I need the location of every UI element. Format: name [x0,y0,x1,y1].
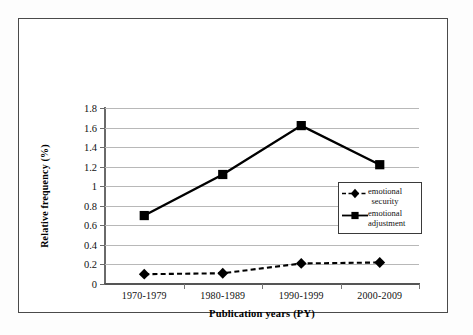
data-point-square-2000-2009 [375,160,384,169]
y-tick-label-1.6: 1.6 [84,122,97,133]
x-tick-mark-2 [262,284,263,289]
legend-marker-diamond-dashed-icon [342,188,368,199]
y-axis-title: Relative frequency (%) [39,144,50,248]
data-point-square-1990-1999 [297,121,306,130]
x-tick-label-1970-1979: 1970-1979 [122,290,167,301]
x-axis-title: Publication years (PY) [105,308,419,319]
figure-canvas: 00.20.40.60.811.21.41.61.8 1970-19791980… [0,0,473,335]
y-tick-label-0.8: 0.8 [84,200,97,211]
legend-label-emotional-adjustment: emotional adjustment [368,209,405,228]
data-point-square-1980-1989 [218,170,227,179]
chart-legend: emotional security emotional adjustment [338,182,422,234]
x-tick-mark-3 [341,284,342,289]
data-point-diamond-1980-1989 [217,268,228,279]
y-tick-label-0.4: 0.4 [84,239,97,250]
data-point-square-1970-1979 [140,211,149,220]
series-line-diamond [144,262,380,274]
series-emotional-security [139,257,385,280]
y-tick-mark-0 [100,284,105,285]
data-point-diamond-2000-2009 [374,257,385,268]
y-tick-label-1.8: 1.8 [84,103,97,114]
y-tick-label-1.2: 1.2 [84,161,97,172]
legend-item-emotional-security[interactable]: emotional security [342,187,418,206]
y-tick-label-1.4: 1.4 [84,142,97,153]
legend-marker-square-solid-icon [342,210,368,221]
y-tick-label-0: 0 [92,279,97,290]
x-tick-label-2000-2009: 2000-2009 [357,290,402,301]
legend-label-emotional-security: emotional security [368,187,402,206]
x-tick-mark-4 [419,284,420,289]
legend-item-emotional-adjustment[interactable]: emotional adjustment [342,209,418,228]
data-point-diamond-1970-1979 [139,269,150,280]
x-tick-mark-1 [184,284,185,289]
y-tick-label-1: 1 [92,181,97,192]
y-tick-label-0.6: 0.6 [84,220,97,231]
chart-frame-border: 00.20.40.60.811.21.41.61.8 1970-19791980… [18,18,448,313]
x-tick-label-1990-1999: 1990-1999 [279,290,324,301]
y-tick-label-0.2: 0.2 [84,259,97,270]
x-tick-label-1980-1989: 1980-1989 [200,290,245,301]
data-point-diamond-1990-1999 [296,258,307,269]
